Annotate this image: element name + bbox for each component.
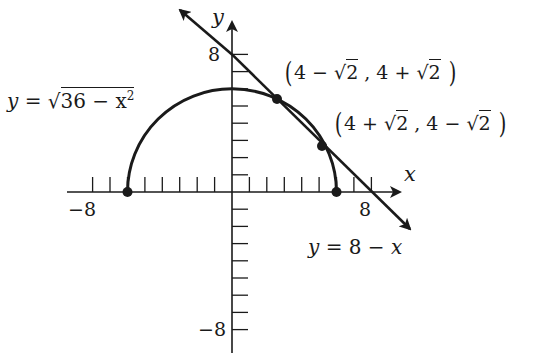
exponent: 2 (127, 89, 135, 103)
line-eq-x: x (391, 235, 402, 259)
p2-radicand-1: 2 (396, 110, 408, 134)
eq-equals: = (18, 89, 47, 113)
line-y-equals-8-minus-x-upper (180, 10, 232, 54)
paren-close: ) (448, 56, 456, 89)
p2-part-a: 4 + (344, 112, 384, 134)
point-neg6-0 (123, 187, 133, 197)
intersection-point-2 (317, 141, 327, 151)
sqrt-icon: √ (416, 61, 428, 83)
x-tick-label-8: 8 (359, 198, 371, 220)
y-tick-label-neg8: −8 (198, 318, 226, 340)
x-tick-label-neg8: −8 (68, 198, 96, 220)
semicircle-equation-label: y = √36 − x2 (7, 89, 134, 113)
p2-mid: , 4 − (408, 112, 466, 134)
point-6-0 (332, 187, 342, 197)
graph-canvas (0, 0, 536, 358)
y-tick-label-8: 8 (208, 43, 220, 65)
paren-open: ( (285, 56, 293, 89)
line-equation-label: y = 8 − x (308, 235, 402, 259)
line-eq-rest: = 8 − (319, 235, 391, 259)
sqrt-icon: √ (334, 61, 346, 83)
eq-radicand: 36 − x2 (61, 87, 135, 113)
x-axis-label: x (404, 162, 416, 186)
radicand-text: 36 − x (61, 89, 127, 113)
paren-close: ) (498, 107, 506, 140)
y-axis-label: y (212, 5, 224, 29)
p1-part-a: 4 − (294, 61, 334, 83)
paren-open: ( (335, 107, 343, 140)
sqrt-icon: √ (384, 112, 396, 134)
p1-mid: , 4 + (358, 61, 416, 83)
p1-radicand-2: 2 (429, 59, 441, 83)
line-eq-y: y (308, 235, 319, 259)
sqrt-icon: √ (466, 112, 478, 134)
sqrt-icon: √ (48, 89, 61, 113)
intersection-label-2: (4 + √2 , 4 − √2) (333, 107, 508, 140)
intersection-point-1 (272, 94, 282, 104)
eq-y: y (7, 89, 18, 113)
p1-radicand-1: 2 (346, 59, 358, 83)
intersection-label-1: (4 − √2 , 4 + √2) (283, 56, 458, 89)
p2-radicand-2: 2 (479, 110, 491, 134)
